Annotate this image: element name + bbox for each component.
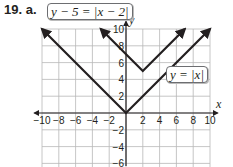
x-tick-label: 8 xyxy=(190,115,196,126)
equation-label-shifted: y − 5 = |x − 2| xyxy=(47,3,133,20)
y-tick-label: 10 xyxy=(113,24,125,35)
y-tick-label: 4 xyxy=(118,74,124,85)
y-tick-label: 6 xyxy=(118,58,124,69)
x-tick-label: −8 xyxy=(53,115,65,126)
y-tick-label: −6 xyxy=(113,158,125,167)
x-tick-label: 10 xyxy=(204,115,216,126)
x-tick-label: −10 xyxy=(34,115,51,126)
x-tick-label: 2 xyxy=(140,115,146,126)
y-tick-label: −2 xyxy=(113,125,125,136)
axes: xy xyxy=(34,13,221,166)
x-tick-label: −4 xyxy=(87,115,99,126)
x-tick-label: 4 xyxy=(157,115,163,126)
equation-label-parent: y = |x| xyxy=(166,66,208,83)
x-axis-label: x xyxy=(215,97,222,111)
x-tick-label: 6 xyxy=(174,115,180,126)
y-tick-label: 2 xyxy=(118,91,124,102)
x-tick-label: −6 xyxy=(70,115,82,126)
y-tick-label: −4 xyxy=(113,142,125,153)
graph: xy −10−8−6−4−2246810108642−2−4−6 xyxy=(0,0,233,167)
